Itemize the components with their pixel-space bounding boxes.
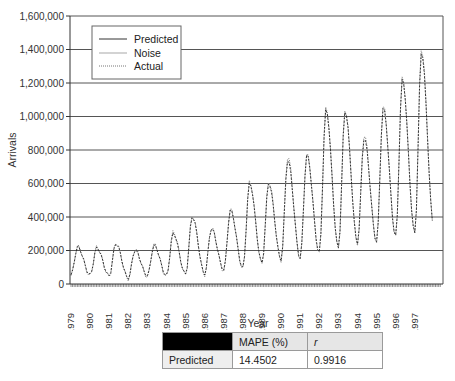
legend: Predicted Noise Actual xyxy=(92,26,181,79)
x-axis-title: Year xyxy=(247,317,269,329)
x-tick-label: 1991 xyxy=(294,313,305,330)
metrics-row-predicted: Predicted 14.4502 0.9916 xyxy=(163,351,383,369)
x-tick-label: 1983 xyxy=(141,313,152,330)
x-tick-label: 1986 xyxy=(199,313,210,330)
y-tick-label: 1,000,000 xyxy=(20,111,65,122)
x-tick-label: 1980 xyxy=(84,313,95,330)
x-tick-label: 1996 xyxy=(390,313,401,330)
y-axis-ticks: 0200,000400,000600,000800,0001,000,0001,… xyxy=(20,11,71,290)
y-tick-label: 1,600,000 xyxy=(20,11,65,22)
x-tick-label: 1990 xyxy=(275,313,286,330)
series-lines xyxy=(71,51,432,281)
legend-actual-label: Actual xyxy=(134,60,163,72)
metrics-row-label: Predicted xyxy=(163,351,233,369)
x-tick-label: 1997 xyxy=(409,313,420,330)
y-tick-label: 600,000 xyxy=(28,178,65,189)
x-tick-label: 1984 xyxy=(161,313,172,330)
x-tick-label: 1993 xyxy=(332,313,343,330)
x-tick-label: 1985 xyxy=(180,313,191,330)
actual-line xyxy=(71,51,432,281)
metrics-header-row: MAPE (%) r xyxy=(163,333,383,351)
x-tick-label: 1995 xyxy=(371,313,382,330)
metrics-header-r: r xyxy=(308,333,383,351)
x-tick-label: 1979 xyxy=(65,313,76,330)
metrics-header-blank xyxy=(163,333,233,351)
predicted-line xyxy=(71,54,432,279)
metrics-mape-value: 14.4502 xyxy=(233,351,308,369)
metrics-header-mape: MAPE (%) xyxy=(233,333,308,351)
y-tick-label: 1,400,000 xyxy=(20,44,65,55)
y-tick-label: 200,000 xyxy=(28,245,65,256)
x-tick-label: 1988 xyxy=(237,313,248,330)
x-tick-label: 1987 xyxy=(218,313,229,330)
x-tick-label: 1994 xyxy=(352,313,363,330)
legend-predicted-label: Predicted xyxy=(134,33,179,45)
y-tick-label: 1,200,000 xyxy=(20,78,65,89)
y-tick-label: 400,000 xyxy=(28,212,65,223)
x-tick-label: 1992 xyxy=(313,313,324,330)
metrics-r-value: 0.9916 xyxy=(308,351,383,369)
arrivals-chart: 0200,000400,000600,000800,0001,000,0001,… xyxy=(0,0,455,330)
y-tick-label: 800,000 xyxy=(28,145,65,156)
x-tick-label: 1982 xyxy=(122,313,133,330)
legend-noise-label: Noise xyxy=(134,47,161,59)
metrics-table: MAPE (%) r Predicted 14.4502 0.9916 xyxy=(162,332,383,369)
x-tick-label: 1981 xyxy=(103,313,114,330)
y-tick-label: 0 xyxy=(58,279,64,290)
y-axis-title: Arrivals xyxy=(6,132,18,167)
